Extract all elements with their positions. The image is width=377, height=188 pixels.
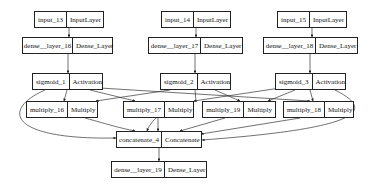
layer-type: Activation [313, 74, 349, 89]
edges-layer [0, 0, 377, 188]
layer-name: concatenate_4 [117, 132, 162, 147]
layer-node-input-13: input_13InputLayer [34, 11, 104, 28]
edge-sigmoid3-multiply18 [310, 90, 313, 101]
layer-name: input_14 [162, 12, 194, 27]
edge-sigmoid1-multiply17 [90, 90, 135, 101]
layer-node-sigmoid-2: sigmoid_2Activation [160, 73, 231, 90]
edge-sigmoid1-multiply16 [64, 90, 67, 101]
layer-type: Multiply [68, 102, 99, 117]
layer-name: dense__layer_19 [112, 162, 165, 177]
layer-node-dense-17: dense__layer_17Dense_Layer [148, 37, 243, 54]
layer-type: Concatenate [162, 132, 203, 147]
layer-type: Dense_Layer [73, 38, 116, 53]
layer-name: dense__layer_18 [264, 38, 316, 53]
layer-node-multiply-17: multiply_17Multiply [123, 101, 194, 118]
layer-node-input-14: input_14InputLayer [161, 11, 231, 28]
layer-node-multiply-18: multiply_18Multiply [283, 101, 354, 118]
layer-node-concatenate-4: concatenate_4Concatenate [116, 131, 202, 148]
layer-type: InputLayer [310, 12, 347, 27]
edge-multiply16-concat [85, 118, 135, 131]
layer-type: Multiply [165, 102, 196, 117]
layer-type: Dense_Layer [165, 162, 208, 177]
layer-name: multiply_18 [284, 102, 325, 117]
edge-sigmoid2-multiply16 [96, 90, 170, 101]
layer-name: multiply_19 [203, 102, 244, 117]
layer-node-sigmoid-3: sigmoid_3Activation [275, 73, 346, 90]
layer-name: sigmoid_2 [161, 74, 198, 89]
layer-node-dense-16: dense__layer_16Dense_Layer [22, 37, 113, 54]
layer-type: Multiply [325, 102, 356, 117]
layer-node-multiply-16: multiply_16Multiply [26, 101, 98, 118]
layer-type: Activation [198, 74, 234, 89]
layer-type: Dense_Layer [316, 38, 359, 53]
layer-name: sigmoid_3 [276, 74, 313, 89]
layer-node-input-15: input_15InputLayer [277, 11, 347, 28]
layer-type: InputLayer [194, 12, 231, 27]
layer-name: dense__layer_16 [23, 38, 73, 53]
layer-node-dense-19: dense__layer_19Dense_Layer [111, 161, 207, 178]
layer-name: dense__layer_17 [149, 38, 201, 53]
layer-node-dense-18: dense__layer_18Dense_Layer [263, 37, 358, 54]
layer-name: input_15 [278, 12, 310, 27]
layer-node-sigmoid-1: sigmoid_1Activation [32, 73, 103, 90]
layer-name: sigmoid_1 [33, 74, 70, 89]
layer-type: Multiply [244, 102, 275, 117]
layer-name: input_13 [35, 12, 67, 27]
edge-multiply19-concat [180, 118, 225, 131]
layer-name: multiply_17 [124, 102, 165, 117]
layer-node-multiply-19: multiply_19Multiply [202, 101, 276, 118]
layer-type: Dense_Layer [201, 38, 244, 53]
layer-type: InputLayer [67, 12, 104, 27]
layer-type: Activation [70, 74, 106, 89]
layer-name: multiply_16 [27, 102, 68, 117]
